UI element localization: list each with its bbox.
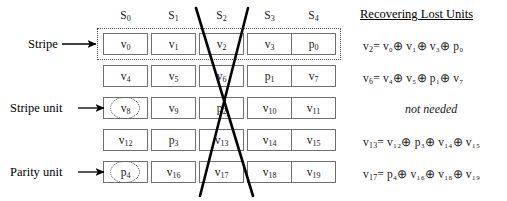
grid-cell-r2c2: p2 [199,97,244,119]
grid-cell-r0c4: p0 [291,33,336,55]
grid-cell-r0c0: v0 [103,33,148,55]
grid-cell-r0c2: v2 [199,33,244,55]
grid-cell-r1c1: v5 [151,65,196,87]
grid-cell-r3c3: v14 [247,129,292,151]
grid-cell-r2c3: v10 [247,97,292,119]
grid-cell-r3c1: p3 [151,129,196,151]
grid-cell-r1c3: p1 [247,65,292,87]
grid-cell-r3c0: v12 [103,129,148,151]
equation-v2: v2= v₀⊕ v₁⊕ v₃⊕ p₀ [363,39,463,54]
equation-v17: v17= p₄⊕ v₁₆⊕ v₁₈⊕ v₁₉ [363,167,480,182]
column-header-s4: S4 [291,9,336,23]
column-header-s1: S1 [151,9,196,23]
panel-title: Recovering Lost Units [360,7,473,22]
grid-cell-r1c4: v7 [291,65,336,87]
grid-cell-r4c1: v16 [151,161,196,183]
parity-unit-label: Parity unit [10,165,62,180]
grid-cell-r3c4: v15 [291,129,336,151]
equation-v13: v13= v₁₂⊕ p₃⊕ v₁₄⊕ v₁₅ [363,135,480,150]
grid-cell-r1c0: v4 [103,65,148,87]
grid-cell-r4c2: v17 [199,161,244,183]
figure-root: S0 S1 S2 S3 S4 v0 v1 v2 v3 p0 v4 v5 v6 p… [0,0,507,201]
stripe-unit-label: Stripe unit [10,101,62,116]
grid-cell-r0c1: v1 [151,33,196,55]
column-header-s3: S3 [247,9,292,23]
grid-cell-r2c1: v9 [151,97,196,119]
grid-cell-r0c3: v3 [247,33,292,55]
stripe-unit-highlight-circle [110,97,140,119]
column-header-s2: S2 [199,9,244,23]
parity-unit-highlight-circle [110,161,140,183]
grid-cell-r1c2: v6 [199,65,244,87]
column-header-s0: S0 [103,9,148,23]
equation-v6: v6= v₄⊕ v₅⊕ p₁⊕ v₇ [363,71,463,86]
equation-not-needed: not needed [405,102,457,117]
grid-cell-r3c2: v13 [199,129,244,151]
grid-cell-r4c3: v18 [247,161,292,183]
stripe-label: Stripe [28,37,58,52]
grid-cell-r4c4: v19 [291,161,336,183]
grid-cell-r2c4: v11 [291,97,336,119]
